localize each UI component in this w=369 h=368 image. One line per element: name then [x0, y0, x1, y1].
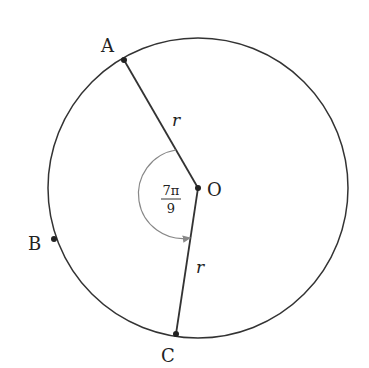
circle-diagram: A B C O r r 7π 9 [0, 0, 369, 368]
point-A [121, 57, 127, 63]
label-B: B [28, 233, 41, 254]
label-O: O [207, 179, 222, 200]
angle-denominator: 9 [167, 201, 175, 216]
radius-label-upper: r [172, 110, 181, 130]
label-A: A [100, 35, 115, 56]
point-B [51, 236, 57, 242]
label-C: C [161, 345, 175, 366]
angle-numerator: 7π [163, 183, 180, 198]
radius-OA [124, 60, 198, 188]
radius-label-lower: r [196, 257, 205, 277]
point-O [195, 185, 201, 191]
radius-OC [176, 188, 198, 334]
point-C [173, 331, 179, 337]
